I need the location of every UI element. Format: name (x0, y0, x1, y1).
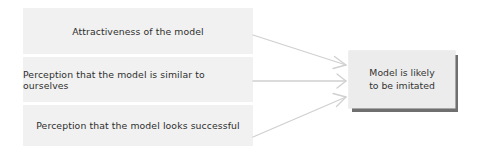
arrow-icon (253, 94, 346, 138)
outcome-box: Model is likely to be imitated (349, 51, 455, 108)
arrow-icon (253, 74, 346, 88)
factor-box-success: Perception that the model looks successf… (23, 105, 253, 146)
factor-label: Attractiveness of the model (72, 26, 204, 37)
arrow-icon (253, 35, 346, 69)
outcome-label-line2: to be imitated (369, 80, 435, 93)
factor-label: Perception that the model looks successf… (36, 120, 240, 131)
outcome-label-line1: Model is likely (369, 67, 434, 80)
factor-label: Perception that the model is similar to … (23, 69, 253, 91)
factor-box-attractiveness: Attractiveness of the model (23, 8, 253, 54)
factor-box-similarity: Perception that the model is similar to … (23, 57, 253, 102)
